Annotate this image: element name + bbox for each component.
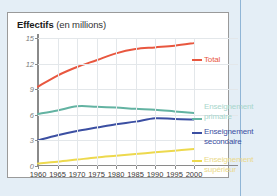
x-tick-mark <box>175 166 176 169</box>
x-tick-mark <box>136 166 137 169</box>
x-tick-label: 1995 <box>166 170 183 179</box>
x-tick-label: 1960 <box>30 170 47 179</box>
x-tick-label: 1965 <box>49 170 66 179</box>
chart-legend: Total Enseignement primaire Enseignement… <box>196 38 242 178</box>
legend-label-primaire-line2: primaire <box>204 112 253 122</box>
y-tick-label: 15 <box>26 34 34 43</box>
legend-label-total-line1: Total <box>204 55 220 65</box>
x-tick-mark <box>58 166 59 169</box>
chart-title: Effectifs (en millions) <box>17 19 106 30</box>
chart-title-strong: Effectifs <box>17 19 54 30</box>
x-tick-label: 1980 <box>108 170 125 179</box>
gridline-vertical <box>116 38 117 166</box>
y-tick-mark <box>35 38 39 39</box>
plot-area: 0369121519601965197019751980198519901995… <box>38 38 194 166</box>
x-tick-label: 1975 <box>88 170 105 179</box>
legend-label-superieur-line2: supérieur <box>204 165 253 175</box>
gridline-vertical <box>58 38 59 166</box>
gridline-vertical <box>77 38 78 166</box>
gridline-vertical <box>97 38 98 166</box>
x-tick-mark <box>38 166 39 169</box>
y-tick-label: 6 <box>30 110 34 119</box>
legend-label-secondaire: Enseignement secondaire <box>204 127 253 146</box>
x-tick-mark <box>194 166 195 169</box>
legend-label-primaire: Enseignement primaire <box>204 102 253 121</box>
y-tick-mark <box>35 89 39 90</box>
y-tick-label: 12 <box>26 59 34 68</box>
x-tick-mark <box>116 166 117 169</box>
legend-label-secondaire-line1: Enseignement <box>204 127 253 137</box>
gridline-vertical <box>194 38 195 166</box>
legend-swatch-total <box>192 59 202 61</box>
gridline-vertical <box>136 38 137 166</box>
legend-label-total: Total <box>204 55 220 65</box>
legend-label-superieur-line1: Enseignement <box>204 155 253 165</box>
chart-title-light: (en millions) <box>54 19 106 30</box>
legend-swatch-secondaire <box>192 132 202 134</box>
plot-inner: 0369121519601965197019751980198519901995… <box>38 38 194 166</box>
x-tick-mark <box>97 166 98 169</box>
x-tick-label: 1970 <box>69 170 86 179</box>
legend-swatch-primaire <box>192 118 202 120</box>
y-tick-label: 9 <box>30 85 34 94</box>
legend-label-superieur: Enseignement supérieur <box>204 155 253 174</box>
y-tick-mark <box>35 64 39 65</box>
y-tick-mark <box>35 140 39 141</box>
chart-card: Effectifs (en millions) 0369121519601965… <box>7 12 229 178</box>
y-tick-label: 3 <box>30 136 34 145</box>
y-tick-mark <box>35 115 39 116</box>
x-tick-mark <box>77 166 78 169</box>
legend-label-secondaire-line2: secondaire <box>204 137 253 147</box>
x-tick-mark <box>155 166 156 169</box>
x-tick-label: 1985 <box>127 170 144 179</box>
legend-swatch-superieur <box>192 160 202 162</box>
x-tick-label: 1990 <box>147 170 164 179</box>
gridline-vertical <box>175 38 176 166</box>
legend-label-primaire-line1: Enseignement <box>204 102 253 112</box>
gridline-vertical <box>155 38 156 166</box>
